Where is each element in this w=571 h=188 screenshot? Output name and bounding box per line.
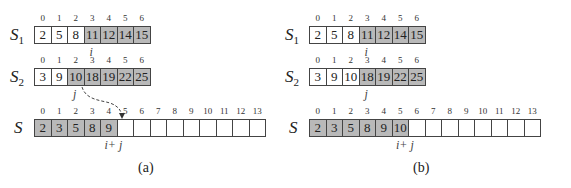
array-cell: 10 bbox=[342, 68, 360, 86]
dashed-arrow-icon bbox=[0, 0, 285, 188]
index-label: 4 bbox=[375, 55, 393, 65]
array-s2: 391018192225 bbox=[309, 68, 426, 86]
panel-b: S1012345625811121415iS201234563910181922… bbox=[275, 0, 560, 188]
array-cell: 9 bbox=[326, 68, 344, 86]
array-cell: 8 bbox=[359, 119, 377, 137]
index-label: 0 bbox=[309, 106, 327, 116]
array-cell bbox=[524, 119, 542, 137]
array-label-s2: S2 bbox=[285, 67, 299, 88]
array-cell: 15 bbox=[408, 26, 426, 44]
array-cell bbox=[507, 119, 525, 137]
array-cell: 12 bbox=[375, 26, 393, 44]
index-row-s: 012345678910111213 bbox=[309, 106, 541, 116]
index-label: 10 bbox=[474, 106, 492, 116]
array-cell bbox=[425, 119, 443, 137]
panel-a: S1012345625811121415iS201234563910181922… bbox=[0, 0, 285, 188]
index-label: 12 bbox=[507, 106, 525, 116]
array-cell: 2 bbox=[309, 119, 327, 137]
array-name: S bbox=[289, 118, 298, 137]
array-cell: 14 bbox=[392, 26, 410, 44]
array-cell: 10 bbox=[392, 119, 410, 137]
array-cell: 18 bbox=[359, 68, 377, 86]
index-label: 1 bbox=[326, 106, 344, 116]
array-cell bbox=[458, 119, 476, 137]
array-cell: 8 bbox=[342, 26, 360, 44]
panel-caption: (b) bbox=[413, 160, 429, 176]
array-subscript: 2 bbox=[294, 76, 300, 88]
array-cell bbox=[408, 119, 426, 137]
array-cell: 9 bbox=[375, 119, 393, 137]
array-name: S bbox=[285, 25, 294, 44]
array-cell: 22 bbox=[392, 68, 410, 86]
array-cell bbox=[474, 119, 492, 137]
array-label-s: S bbox=[289, 118, 298, 138]
index-label: 11 bbox=[491, 106, 509, 116]
index-label: 0 bbox=[309, 13, 327, 23]
array-cell: 2 bbox=[309, 26, 327, 44]
array-s: 2358910 bbox=[309, 119, 541, 137]
index-label: 3 bbox=[359, 106, 377, 116]
array-cell: 5 bbox=[326, 26, 344, 44]
index-label: 1 bbox=[326, 13, 344, 23]
array-cell bbox=[441, 119, 459, 137]
index-label: 0 bbox=[309, 55, 327, 65]
array-name: S bbox=[285, 67, 294, 86]
array-cell: 3 bbox=[326, 119, 344, 137]
index-row-s2: 0123456 bbox=[309, 55, 426, 65]
index-label: 4 bbox=[375, 106, 393, 116]
index-label: 3 bbox=[359, 55, 377, 65]
index-label: 13 bbox=[524, 106, 542, 116]
index-label: 2 bbox=[342, 55, 360, 65]
array-cell: 25 bbox=[408, 68, 426, 86]
array-s1: 25811121415 bbox=[309, 26, 426, 44]
array-cell: 19 bbox=[375, 68, 393, 86]
array-subscript: 1 bbox=[294, 34, 300, 46]
index-label: 4 bbox=[375, 13, 393, 23]
index-label: 7 bbox=[425, 106, 443, 116]
index-label: 1 bbox=[326, 55, 344, 65]
array-cell: 3 bbox=[309, 68, 327, 86]
index-label: 8 bbox=[441, 106, 459, 116]
pointer-s: i+ j bbox=[396, 138, 414, 153]
index-label: 5 bbox=[392, 55, 410, 65]
index-label: 6 bbox=[408, 55, 426, 65]
index-label: 5 bbox=[392, 106, 410, 116]
index-label: 9 bbox=[458, 106, 476, 116]
array-cell: 11 bbox=[359, 26, 377, 44]
pointer-s2: j bbox=[365, 87, 368, 102]
index-label: 6 bbox=[408, 106, 426, 116]
array-label-s1: S1 bbox=[285, 25, 299, 46]
array-cell bbox=[491, 119, 509, 137]
index-label: 3 bbox=[359, 13, 377, 23]
index-label: 6 bbox=[408, 13, 426, 23]
index-row-s1: 0123456 bbox=[309, 13, 426, 23]
index-label: 2 bbox=[342, 106, 360, 116]
index-label: 2 bbox=[342, 13, 360, 23]
array-cell: 5 bbox=[342, 119, 360, 137]
index-label: 5 bbox=[392, 13, 410, 23]
